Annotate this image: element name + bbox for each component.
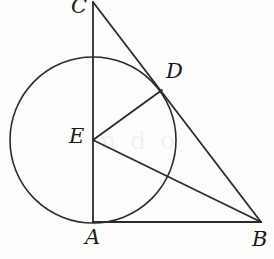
segment-CB — [93, 2, 261, 222]
point-label-B: B — [252, 229, 267, 250]
segment-ED — [93, 90, 162, 140]
point-label-D: D — [166, 61, 183, 82]
point-label-E: E — [69, 126, 84, 147]
point-label-A: A — [85, 227, 100, 248]
segment-EB — [93, 140, 261, 222]
geometry-canvas — [0, 0, 274, 259]
point-label-C: C — [71, 0, 87, 17]
geometry-figure: n d o C D E A B — [0, 0, 274, 259]
